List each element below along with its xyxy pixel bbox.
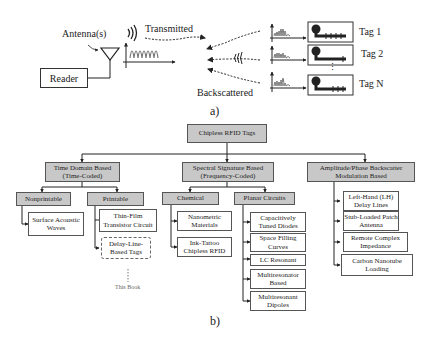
caption-a: a): [210, 104, 219, 119]
leaf-delay-line-tags: Delay-Line-Based Tags: [101, 237, 151, 259]
leaf-left-hand-delay-lines: Left-Hand (LH) Delay Lines: [343, 191, 399, 211]
antenna-icon: [101, 48, 119, 60]
leaf-stub-loaded-patch: Stub-Loaded Patch Antenna: [343, 211, 399, 231]
leaf-multiresonator-based: Multiresonator Based: [250, 269, 306, 289]
tag-ellipsis: ⋮: [328, 63, 337, 72]
leaf-label: Delay-Line-Based Tags: [102, 240, 150, 257]
branch-spectral-line1: Spectral Signature Based: [193, 164, 263, 172]
leaf-label: Ink-Tattoo Chipless RFID: [178, 239, 231, 256]
caption-b: b): [210, 314, 220, 329]
leaf-label: Remote Complex Impedance: [344, 234, 407, 251]
leaf-carbon-nanotube-loading: Carbon Nanotube Loading: [341, 254, 413, 276]
reader-box: Reader: [40, 68, 88, 88]
leaf-nanometric-materials: Nanometric Materials: [177, 211, 232, 231]
leaf-label: Carbon Nanotube Loading: [342, 257, 412, 274]
leaf-label: Surface Acoustic Waves: [29, 216, 83, 233]
leaf-label: Multiresonant Dipoles: [251, 293, 305, 310]
leaf-remote-complex-impedance: Remote Complex Impedance: [343, 232, 408, 252]
tag1-label: Tag 1: [359, 27, 381, 37]
leaf-lc-resonant: LC Resonant: [250, 254, 306, 266]
radio-wave-icon: [128, 25, 137, 41]
branch-time-domain-line2: (Time-Coded): [63, 172, 103, 180]
leaf-space-filling-curves: Space Filling Curves: [250, 233, 306, 252]
branch-time-domain: Time Domain Based (Time-Coded): [45, 162, 120, 182]
tagN-device-icon: [308, 75, 353, 95]
branch-amplitude-phase: Amplitude/Phase Backscatter Modulation B…: [307, 162, 415, 182]
tagN-signal-plot: [270, 72, 306, 92]
leaf-label: Left-Hand (LH) Delay Lines: [344, 193, 398, 210]
tag2-label: Tag 2: [361, 49, 383, 59]
transmitted-signal-plot: [123, 43, 175, 68]
tag1-device-icon: [308, 22, 353, 42]
tag1-signal-plot: [270, 24, 306, 42]
branch-spectral-signature: Spectral Signature Based (Frequency-Code…: [182, 162, 274, 182]
node-nonprintable-label: Nonprintable: [25, 195, 62, 203]
backscatter-wave-icon: [235, 52, 243, 64]
leaf-label: Nanometric Materials: [178, 213, 231, 230]
node-chemical: Chemical: [162, 192, 219, 205]
leaf-thin-film-transistor: Thin-Film Transistor Circuit: [99, 209, 157, 232]
reader-antenna-wire: [88, 60, 110, 78]
tagN-label: Tag N: [359, 79, 384, 89]
node-planar-circuits-label: Planar Circuits: [244, 194, 286, 202]
leaf-label: Space Filling Curves: [251, 234, 305, 251]
node-printable: Printable: [87, 192, 144, 206]
leaf-label: Thin-Film Transistor Circuit: [100, 212, 156, 229]
this-book-note: This Book: [115, 284, 140, 290]
leaf-capacitively-tuned-diodes: Capacitively Tuned Diodes: [250, 212, 306, 232]
leaf-label: Capacitively Tuned Diodes: [251, 214, 305, 231]
node-chemical-label: Chemical: [177, 194, 204, 202]
node-nonprintable: Nonprintable: [16, 192, 71, 206]
leaf-label: LC Resonant: [260, 256, 297, 264]
leaf-surface-acoustic-waves: Surface Acoustic Waves: [28, 212, 84, 236]
leaf-label: Multiresonator Based: [251, 271, 305, 288]
leaf-multiresonant-dipoles: Multiresonant Dipoles: [250, 291, 306, 311]
root-node-label: Chipless RFID Tags: [199, 129, 256, 137]
node-planar-circuits: Planar Circuits: [234, 192, 295, 205]
branch-time-domain-line1: Time Domain Based: [54, 164, 112, 172]
tag2-signal-plot: [270, 46, 306, 64]
branch-amplitude-line2: Modulation Based: [335, 172, 387, 180]
branch-spectral-line2: (Frequency-Coded): [201, 172, 256, 180]
antenna-label: Antenna(s): [62, 29, 106, 39]
leaf-label: Stub-Loaded Patch Antenna: [344, 213, 398, 230]
root-node: Chipless RFID Tags: [187, 124, 267, 143]
reader-label: Reader: [50, 73, 78, 84]
branch-amplitude-line1: Amplitude/Phase Backscatter: [320, 164, 403, 172]
backscattered-label: Backscattered: [197, 88, 253, 98]
transmitted-label: Transmitted: [145, 24, 193, 34]
node-printable-label: Printable: [103, 195, 128, 203]
leaf-ink-tattoo: Ink-Tattoo Chipless RFID: [177, 237, 232, 257]
